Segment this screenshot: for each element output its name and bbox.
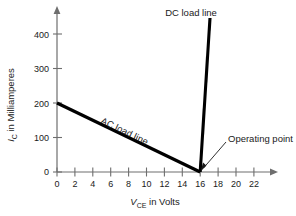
x-tick-label-2: 2 [72, 179, 77, 189]
y-axis-title: IC in Milliamperes [5, 68, 18, 142]
operating-point-annotation: Operating point [201, 133, 294, 171]
operating-point-leader-line [204, 142, 227, 168]
x-tick-label-14: 14 [177, 179, 187, 189]
operating-point-label: Operating point [228, 133, 293, 144]
x-tick-labels: 0 2 4 6 8 10 12 14 16 18 20 22 [54, 179, 258, 189]
chart-canvas: 0 100 200 300 400 0 2 4 6 8 1 [0, 0, 296, 216]
axes-group [54, 6, 278, 175]
y-tick-label-200: 200 [34, 99, 49, 109]
y-tick-label-0: 0 [44, 167, 49, 177]
dc-load-line [200, 18, 210, 172]
dc-load-line-label: DC load line [165, 7, 217, 18]
x-tick-label-16: 16 [195, 179, 205, 189]
x-tick-label-22: 22 [249, 179, 259, 189]
y-axis-title-rest: in Milliamperes [5, 68, 16, 134]
y-tick-labels: 0 100 200 300 400 [34, 30, 49, 178]
y-tick-label-400: 400 [34, 30, 49, 40]
ac-load-line-label: AC load line [99, 115, 150, 147]
x-tick-label-18: 18 [213, 179, 223, 189]
x-tick-label-8: 8 [126, 179, 131, 189]
x-tick-label-4: 4 [90, 179, 95, 189]
x-axis-title: VCE in Volts [130, 196, 180, 209]
x-tick-label-10: 10 [141, 179, 151, 189]
x-tick-label-12: 12 [159, 179, 169, 189]
x-axis-arrowhead [270, 169, 278, 176]
x-axis-title-rest: in Volts [146, 196, 180, 207]
y-axis-arrowhead [54, 6, 61, 14]
x-tick-label-20: 20 [231, 179, 241, 189]
x-axis-title-subscript: CE [137, 202, 147, 209]
y-tick-label-300: 300 [34, 64, 49, 74]
x-tick-label-6: 6 [108, 179, 113, 189]
load-line-chart: 0 100 200 300 400 0 2 4 6 8 1 [0, 0, 296, 216]
x-tick-label-0: 0 [54, 179, 59, 189]
y-tick-label-100: 100 [34, 133, 49, 143]
